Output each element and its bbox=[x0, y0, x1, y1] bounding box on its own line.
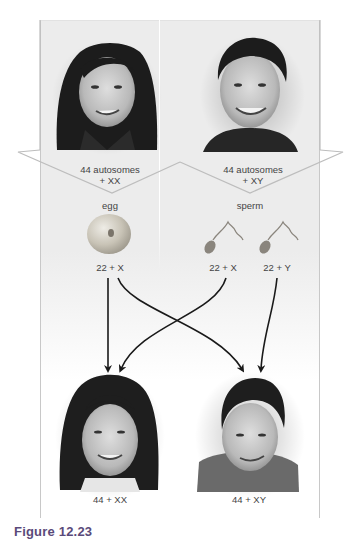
egg-icon bbox=[87, 214, 131, 254]
father-label-line1: 44 autosomes bbox=[205, 164, 301, 175]
sperm-x-chromosome-label: 22 + X bbox=[198, 262, 248, 273]
sperm-y-icon bbox=[257, 222, 298, 256]
sperm-title: sperm bbox=[225, 200, 275, 211]
arrow-egg-to-son bbox=[118, 278, 242, 369]
inheritance-arrows bbox=[108, 278, 277, 369]
arrow-spermy-to-son bbox=[261, 278, 277, 369]
daughter-chromosome-label: 44 + XX bbox=[85, 494, 135, 505]
mother-portrait bbox=[52, 40, 162, 155]
father-portrait bbox=[200, 35, 305, 155]
figure-caption: Figure 12.23 bbox=[14, 524, 92, 539]
egg-chromosome-label: 22 + X bbox=[85, 262, 135, 273]
father-label-line2: + XY bbox=[205, 175, 301, 186]
father-chromosome-label: 44 autosomes + XY bbox=[205, 164, 301, 186]
daughter-portrait bbox=[55, 372, 165, 500]
mother-label-line2: + XX bbox=[62, 175, 158, 186]
mother-chromosome-label: 44 autosomes + XX bbox=[62, 164, 158, 186]
son-chromosome-label: 44 + XY bbox=[224, 494, 274, 505]
mother-label-line1: 44 autosomes bbox=[62, 164, 158, 175]
sperm-x-icon bbox=[202, 222, 243, 256]
son-portrait bbox=[195, 372, 305, 500]
egg-title: egg bbox=[90, 200, 130, 211]
sperm-y-chromosome-label: 22 + Y bbox=[252, 262, 302, 273]
arrow-spermx-to-daughter bbox=[121, 278, 226, 369]
